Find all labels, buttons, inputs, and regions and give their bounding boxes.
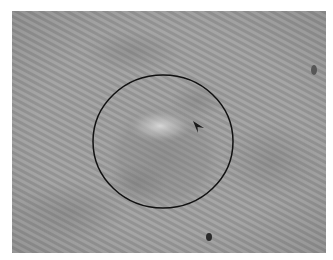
lesion-photograph [12, 11, 326, 253]
vignette [12, 11, 326, 253]
photo-canvas [12, 11, 326, 253]
